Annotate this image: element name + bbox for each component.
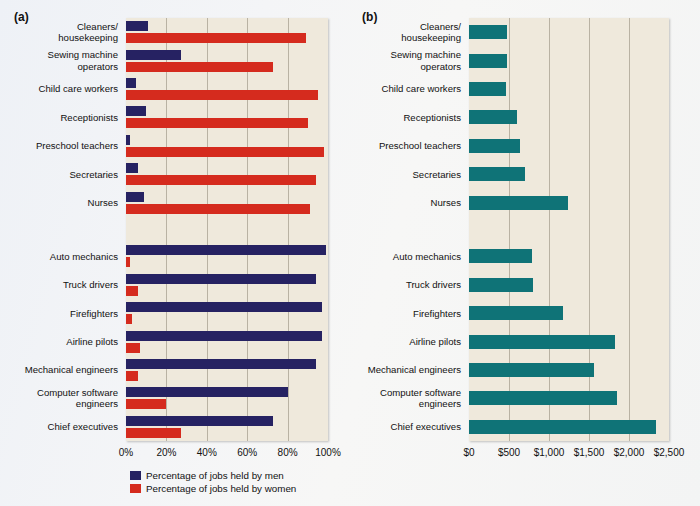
category-label: Airline pilots [409,336,461,347]
x-axis-tick-label: 20% [156,447,176,458]
category-label: Sewing machine operators [48,49,118,71]
category-label: Auto mechanics [393,251,461,262]
category-label: Airline pilots [66,336,118,347]
bar-men [126,78,136,88]
bar-men [126,331,322,341]
gridline [549,18,550,441]
bar-women [126,90,318,100]
bar-women [126,62,273,72]
x-axis-tick-label: $500 [498,447,520,458]
x-axis-tick-label: $2,500 [654,447,685,458]
category-label: Truck drivers [406,279,461,290]
bar-earnings [469,278,533,292]
bar-earnings [469,196,568,210]
category-label: Nurses [431,197,461,208]
category-label: Child care workers [39,83,118,94]
category-label: Preschool teachers [379,140,461,151]
bar-men [126,135,130,145]
category-label: Cleaners/ housekeeping [58,21,118,43]
gridline [166,18,167,441]
bar-earnings [469,420,656,434]
bar-earnings [469,391,617,405]
category-label: Receptionists [60,112,118,123]
category-label: Computer software engineers [380,387,461,409]
x-axis-tick-label: $1,500 [574,447,605,458]
bar-men [126,274,316,284]
gridline [247,18,248,441]
x-axis-tick-label: 100% [315,447,341,458]
category-label: Sewing machine operators [391,49,461,71]
bar-earnings [469,249,532,263]
category-label: Firefighters [70,308,118,319]
x-axis-tick-label: $2,000 [614,447,645,458]
panel-a-x-axis: 0%20%40%60%80%100% [126,447,328,463]
bar-men [126,387,288,397]
bar-earnings [469,25,507,39]
x-axis-tick-label: 0% [119,447,133,458]
bar-women [126,286,138,296]
panel-b-category-labels: Cleaners/ housekeepingSewing machine ope… [352,18,465,441]
category-label: Receptionists [403,112,461,123]
bar-earnings [469,306,563,320]
panel-b-x-axis: $0$500$1,000$1,500$2,000$2,500 [469,447,669,463]
category-label: Cleaners/ housekeeping [401,21,461,43]
bar-women [126,257,130,267]
legend-item[interactable]: Percentage of jobs held by women [130,483,296,494]
category-label: Auto mechanics [50,251,118,262]
bar-women [126,343,140,353]
category-label: Mechanical engineers [25,364,118,375]
bar-men [126,245,326,255]
legend-item[interactable]: Percentage of jobs held by men [130,470,296,481]
panel-a-category-labels: Cleaners/ housekeepingSewing machine ope… [0,18,122,441]
bar-earnings [469,363,594,377]
legend-swatch-men [130,471,141,480]
gridline [288,18,289,441]
bar-men [126,50,181,60]
bar-men [126,302,322,312]
gridline [509,18,510,441]
x-axis-tick-label: 40% [197,447,217,458]
x-axis-tick-label: $1,000 [534,447,565,458]
category-label: Preschool teachers [36,140,118,151]
bar-women [126,399,166,409]
panel-a: (a) Cleaners/ housekeepingSewing machine… [0,0,352,506]
legend-label: Percentage of jobs held by men [146,470,284,481]
bar-earnings [469,82,506,96]
category-label: Chief executives [391,421,461,432]
bar-men [126,359,316,369]
bar-women [126,428,181,438]
category-label: Secretaries [412,169,461,180]
panel-b-plot-area [469,18,669,441]
legend-label: Percentage of jobs held by women [146,483,296,494]
category-label: Truck drivers [63,279,118,290]
x-axis-tick-label: 80% [278,447,298,458]
bar-men [126,106,146,116]
bar-earnings [469,54,507,68]
category-label: Secretaries [69,169,118,180]
category-label: Child care workers [382,83,461,94]
bar-women [126,147,324,157]
bar-men [126,163,138,173]
gridline [629,18,630,441]
bar-earnings [469,167,525,181]
legend-swatch-women [130,484,141,493]
bar-men [126,416,273,426]
bar-women [126,118,308,128]
bar-women [126,371,138,381]
bar-men [126,21,148,31]
panel-a-legend: Percentage of jobs held by menPercentage… [130,470,296,496]
panel-a-plot-area [126,18,328,441]
category-label: Mechanical engineers [368,364,461,375]
bar-earnings [469,335,615,349]
category-label: Nurses [88,197,118,208]
bar-women [126,33,306,43]
bar-earnings [469,110,517,124]
bar-women [126,175,316,185]
category-label: Computer software engineers [37,387,118,409]
gridline [207,18,208,441]
bar-earnings [469,139,520,153]
gridline [589,18,590,441]
x-axis-tick-label: $0 [463,447,474,458]
category-label: Chief executives [48,421,118,432]
x-axis-tick-label: 60% [237,447,257,458]
